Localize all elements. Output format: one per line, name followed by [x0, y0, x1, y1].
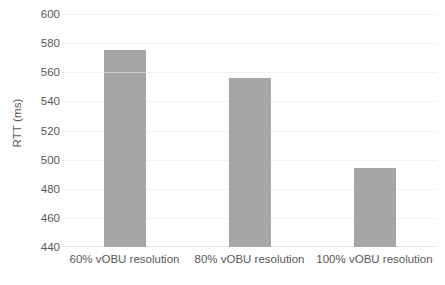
bars — [62, 14, 437, 247]
plot-area — [62, 14, 437, 247]
y-axis-tick-labels: 440460480500520540560580600 — [26, 0, 60, 285]
bar-chart: RTT (ms) 440460480500520540560580600 60%… — [0, 0, 445, 285]
y-axis-tick-label: 520 — [41, 125, 60, 137]
x-axis-tick-label: 100% vOBU resolution — [312, 253, 437, 273]
y-axis-tick-label: 460 — [41, 212, 60, 224]
y-axis-title-text: RTT (ms) — [11, 98, 23, 147]
bar-seam — [104, 72, 146, 73]
y-axis-tick-label: 560 — [41, 66, 60, 78]
y-axis-title: RTT (ms) — [6, 0, 28, 245]
y-axis-tick-label: 580 — [41, 37, 60, 49]
bar[interactable] — [229, 78, 271, 247]
y-axis-tick-label: 440 — [41, 241, 60, 253]
y-axis-tick-label: 540 — [41, 95, 60, 107]
x-axis-tick-label: 60% vOBU resolution — [62, 253, 187, 273]
bar[interactable] — [354, 168, 396, 247]
bar[interactable] — [104, 50, 146, 247]
y-axis-tick-label: 600 — [41, 8, 60, 20]
x-axis-tick-label: 80% vOBU resolution — [187, 253, 312, 273]
x-axis-tick-labels: 60% vOBU resolution80% vOBU resolution10… — [62, 253, 437, 273]
y-axis-tick-label: 480 — [41, 183, 60, 195]
y-axis-tick-label: 500 — [41, 154, 60, 166]
